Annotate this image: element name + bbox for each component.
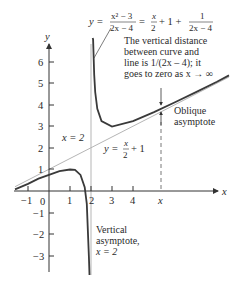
oblique-asymptote-line [15,77,229,187]
x-equals-2-label: x = 2 [61,132,85,143]
annotation-line: asymptote [174,116,216,127]
y-tick-label: −3 [33,251,44,262]
vertical-asymptote-annotation: Vertical asymptote, x = 2 [95,224,140,257]
annotation-line: x = 2 [95,246,117,257]
equation-frac1-numerator: x² − 3 [111,11,133,21]
equation-frac3-numerator: 1 [200,11,205,21]
annotation-line: Oblique [174,105,207,116]
y-tick-label: 4 [38,100,44,111]
y-tick-label: 1 [38,164,43,175]
x-ticks [28,186,133,191]
oblique-line-label: y = x 2 + 1 [103,138,145,160]
line-label-lhs: y = [103,143,118,154]
oblique-asymptote-annotation: Oblique asymptote [174,105,216,127]
curve-left-branch [15,170,90,276]
equation-frac2-numerator: x [151,11,156,21]
line-label-rest: + 1 [131,143,145,154]
x-tick-label: 4 [130,195,136,206]
equation-leader-line [94,28,111,58]
annotation-line: between curve and [124,46,199,57]
equation-frac1-denominator: 2x − 4 [110,23,134,33]
x-tick-label: 1 [67,195,72,206]
curve-equation: y = x² − 3 2x − 4 = x 2 + 1 + 1 2x − 4 [88,11,213,33]
line-label-numerator: x [123,138,128,148]
equation-plus-one: + 1 + [159,16,181,27]
x-axis-label: x [221,186,227,197]
x-tick-label: 0 [40,196,45,207]
y-axis-label: y [44,31,50,42]
equation-frac2-denominator: 2 [151,23,156,33]
x-tick-label: −1 [21,195,32,206]
y-tick-label: 3 [38,121,43,132]
annotation-line: goes to zero as x → ∞ [124,68,213,79]
distance-annotation: The vertical distance between curve and … [124,35,213,79]
annotation-line: The vertical distance [124,35,208,46]
y-tick-label: −2 [33,229,44,240]
x-tick-label: 3 [109,195,114,206]
x-tick-label: 2 [89,195,94,206]
equation-frac3-denominator: 2x − 4 [189,23,213,33]
y-tick-label: 6 [38,57,43,68]
equation-equals: = [139,16,145,27]
y-tick-label: 2 [38,143,43,154]
annotation-line: Vertical [96,224,127,235]
y-tick-label: 5 [38,78,43,89]
x-tick-label: x [157,195,163,206]
line-label-denominator: 2 [123,150,128,160]
equation-lhs: y = [88,16,103,27]
y-tick-label: −1 [33,208,44,219]
asymptote-diagram: y x −1 0 1 2 3 4 x 6 5 4 3 2 1 −1 −2 −3 … [0,0,234,283]
annotation-line: asymptote, [96,235,140,246]
y-ticks [49,62,54,256]
